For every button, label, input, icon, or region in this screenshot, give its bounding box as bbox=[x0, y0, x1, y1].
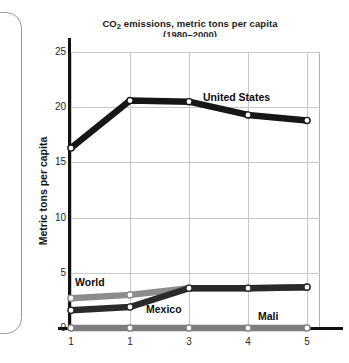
x-axis-tick-label: 1 bbox=[120, 336, 140, 347]
x-axis-line bbox=[58, 327, 343, 330]
chart-title-rest: emissions, metric tons per capita bbox=[121, 18, 278, 29]
gridline-vertical bbox=[71, 52, 72, 328]
series-label-world: World bbox=[75, 276, 105, 288]
y-axis-tick-label: 5 bbox=[42, 267, 66, 278]
y-axis-tick-label: 10 bbox=[42, 212, 66, 223]
y-axis-tick-label: 0 bbox=[42, 322, 66, 333]
gridline-horizontal bbox=[71, 273, 320, 274]
y-axis-tick-label: 25 bbox=[42, 46, 66, 57]
plot-area bbox=[71, 52, 320, 328]
y-axis-tick-label: 20 bbox=[42, 101, 66, 112]
gridline-horizontal bbox=[71, 107, 320, 108]
plot-right-border bbox=[319, 52, 320, 328]
left-rounded-panel bbox=[0, 12, 22, 334]
gridline-vertical bbox=[189, 52, 190, 328]
series-label-mexico: Mexico bbox=[146, 303, 182, 315]
x-axis-tick-label: 1 bbox=[61, 336, 81, 347]
x-axis-tick-labels: 11345 bbox=[0, 336, 349, 352]
series-label-mali: Mali bbox=[258, 310, 278, 322]
y-axis-tick-label: 15 bbox=[42, 156, 66, 167]
gridline-vertical bbox=[307, 52, 308, 328]
y-axis-tick-labels: 0510152025 bbox=[36, 0, 66, 363]
gridline-horizontal bbox=[71, 162, 320, 163]
y-axis-line bbox=[68, 38, 71, 330]
x-axis-tick-label: 3 bbox=[179, 336, 199, 347]
x-axis-tick-label: 5 bbox=[297, 336, 317, 347]
gridline-vertical bbox=[130, 52, 131, 328]
gridline-horizontal bbox=[71, 218, 320, 219]
gridline-horizontal bbox=[71, 52, 320, 53]
chart-title-co: CO bbox=[102, 18, 116, 29]
series-label-united-states: United States bbox=[203, 91, 270, 103]
x-axis-tick-label: 4 bbox=[238, 336, 258, 347]
chart-subtitle: (1980–2000) bbox=[66, 29, 314, 37]
